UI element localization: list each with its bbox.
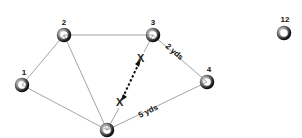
x-mark-start: X: [137, 52, 145, 64]
node-label: 3: [151, 18, 156, 27]
node-12[interactable]: 12: [279, 15, 290, 39]
node-4[interactable]: 4: [202, 65, 213, 88]
node-label: 2: [62, 18, 67, 27]
dashed-arrow: X X: [116, 52, 145, 108]
node-ring-icon: [279, 28, 290, 39]
x-mark-end: X: [116, 96, 124, 108]
edge-1-2: [22, 35, 64, 85]
node-label: 1: [22, 68, 27, 77]
edge-label-3-4: 2 yds: [164, 42, 186, 63]
edge-1-5: [22, 85, 107, 130]
edge-label-4-5: 5 yds: [137, 102, 160, 119]
network-diagram: X X 2 yds 5 yds 1 2 3 4 12: [0, 0, 302, 138]
node-3[interactable]: 3: [148, 18, 159, 41]
node-label: 4: [207, 65, 212, 74]
node-label: 12: [281, 15, 290, 24]
node-1[interactable]: 1: [17, 68, 28, 91]
edge-2-5: [64, 35, 107, 130]
node-2[interactable]: 2: [59, 18, 70, 41]
